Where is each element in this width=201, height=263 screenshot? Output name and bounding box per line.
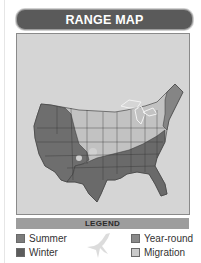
legend-label: Migration [144, 247, 185, 258]
header-title: RANGE MAP [65, 13, 143, 27]
range-map-panel [16, 33, 190, 215]
page-edge-rule [4, 0, 5, 263]
legend-title: LEGEND [85, 219, 120, 228]
legend-item-summer: Summer [16, 233, 67, 244]
legend-item-migration: Migration [131, 247, 185, 258]
legend-label: Year-round [144, 233, 193, 244]
summer-swatch [16, 234, 25, 243]
legend-item-winter: Winter [16, 247, 58, 258]
legend-label: Summer [29, 233, 67, 244]
migration-swatch [131, 248, 140, 257]
winter-swatch [16, 248, 25, 257]
legend-header: LEGEND [16, 218, 189, 229]
legend-label: Winter [29, 247, 58, 258]
range-map-header: RANGE MAP [16, 9, 193, 30]
us-range-map [17, 34, 189, 214]
legend-item-year-round: Year-round [131, 233, 193, 244]
year-round-swatch [131, 234, 140, 243]
northeast-range [163, 84, 183, 130]
bird-silhouette-icon [86, 232, 116, 260]
